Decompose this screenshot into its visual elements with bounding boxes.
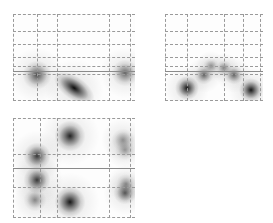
grid-line-horizontal bbox=[165, 74, 263, 75]
grid-line-horizontal bbox=[13, 14, 135, 15]
grid-line-horizontal bbox=[13, 74, 135, 75]
heatmap-panel-top-left bbox=[13, 14, 135, 101]
density-peak bbox=[55, 187, 86, 218]
grid-line-horizontal bbox=[165, 44, 263, 45]
reference-line bbox=[13, 168, 135, 169]
reference-line bbox=[165, 71, 263, 72]
density-peak bbox=[116, 174, 135, 194]
grid-line-horizontal bbox=[13, 100, 135, 101]
grid-line-horizontal bbox=[13, 154, 135, 155]
grid-line-horizontal bbox=[13, 66, 135, 67]
density-peak bbox=[23, 189, 46, 212]
grid-line-horizontal bbox=[13, 44, 135, 45]
grid-line-horizontal bbox=[13, 31, 135, 32]
density-peak bbox=[115, 140, 135, 160]
heatmap-panel-bottom-left bbox=[13, 118, 135, 218]
grid-line-horizontal bbox=[13, 57, 135, 58]
heatmap-panel-top-right bbox=[165, 14, 263, 101]
grid-line-horizontal bbox=[165, 31, 263, 32]
grid-line-horizontal bbox=[165, 100, 263, 101]
reference-line bbox=[13, 71, 135, 72]
grid-line-horizontal bbox=[13, 217, 135, 218]
grid-line-horizontal bbox=[13, 118, 135, 119]
grid-line-horizontal bbox=[165, 14, 263, 15]
grid-line-horizontal bbox=[13, 187, 135, 188]
grid-line-horizontal bbox=[165, 57, 263, 58]
grid-line-horizontal bbox=[165, 66, 263, 67]
